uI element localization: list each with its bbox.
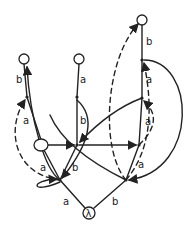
node-M	[75, 143, 78, 146]
node-R	[124, 178, 127, 181]
label-RT-TR: b	[146, 36, 152, 47]
node-TC	[74, 54, 84, 64]
solid-arcs	[27, 60, 182, 187]
node-RM	[137, 143, 140, 146]
label-L-M: b	[72, 162, 78, 173]
edge-labels: a b a b a a b b a a a b	[16, 36, 152, 207]
label-root-L: a	[63, 196, 69, 207]
automaton-diagram: λ a b a b a a b b a a a b	[0, 0, 193, 232]
node-RT	[140, 58, 143, 61]
edge-L-O1	[44, 150, 60, 180]
loop-L	[37, 179, 60, 187]
node-TR	[137, 15, 147, 25]
root-label: λ	[86, 208, 92, 219]
arc-RT-R	[129, 60, 182, 180]
node-O1	[34, 139, 48, 151]
label-L-O1: a	[40, 162, 46, 173]
edge-root-R	[94, 180, 126, 208]
label-M-CU: b	[80, 115, 86, 126]
edge-CU-TC	[77, 64, 79, 97]
label-LU-TL: b	[16, 74, 22, 85]
label-R-RM: a	[138, 159, 144, 170]
label-RU-RT: a	[146, 74, 152, 85]
diagram-svg: λ a b a b a a b b a a a b	[0, 0, 193, 232]
label-root-R: b	[112, 196, 118, 207]
label-CU-TC: a	[80, 74, 86, 85]
node-RU	[140, 96, 143, 99]
label-RM-RU: a	[145, 116, 151, 127]
node-CU	[75, 95, 78, 98]
node-LU	[25, 95, 28, 98]
edge-RM-RU	[139, 98, 142, 145]
label-O1-LU: a	[23, 115, 29, 126]
node-L	[58, 178, 61, 181]
node-TL	[19, 54, 29, 64]
